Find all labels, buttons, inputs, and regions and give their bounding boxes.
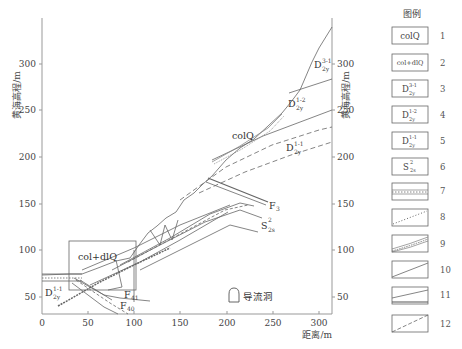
legend-item-5: D 1-1 2y 5 xyxy=(392,132,445,149)
x-tick-200: 200 xyxy=(218,318,235,328)
svg-text:colQ: colQ xyxy=(400,31,420,41)
S2s-band-2 xyxy=(112,210,262,270)
svg-text:11: 11 xyxy=(440,290,451,300)
svg-text:1-1: 1-1 xyxy=(409,134,417,140)
svg-text:1-1: 1-1 xyxy=(53,285,63,292)
y-tick-200: 200 xyxy=(19,152,36,162)
right-y-tick-50: 50 xyxy=(337,292,349,302)
svg-text:2y: 2y xyxy=(409,116,415,123)
y-axis-title-right: 黄海高程/m xyxy=(340,71,351,119)
svg-text:40: 40 xyxy=(127,305,135,312)
fault-F3-line-2 xyxy=(206,182,266,205)
legend-title: 图例 xyxy=(403,8,421,19)
label-D2y-1-2: D 1-2 2y xyxy=(288,96,306,112)
svg-text:12: 12 xyxy=(440,319,451,329)
svg-text:2y: 2y xyxy=(53,293,61,301)
svg-text:S: S xyxy=(403,162,409,172)
svg-text:D: D xyxy=(402,84,409,94)
geological-section-figure: 50 100 150 200 250 300 50 100 150 200 25… xyxy=(0,0,462,349)
y-tick-50: 50 xyxy=(25,292,37,302)
svg-text:9: 9 xyxy=(440,239,445,249)
svg-text:3: 3 xyxy=(276,205,280,212)
right-y-tick-100: 100 xyxy=(337,245,354,255)
boundary-D3-1-D1-2 xyxy=(289,79,332,93)
svg-text:4: 4 xyxy=(440,110,445,120)
y-tick-150: 150 xyxy=(19,199,36,209)
svg-text:F: F xyxy=(269,200,276,211)
legend: 图例 colQ 1 col+dlQ 2 D 3-1 2y 3 D 1-2 2y … xyxy=(392,8,451,332)
svg-text:D: D xyxy=(314,59,322,70)
svg-text:2s: 2s xyxy=(410,167,416,173)
svg-text:F: F xyxy=(124,289,131,300)
svg-text:2s: 2s xyxy=(268,226,275,233)
svg-text:5: 5 xyxy=(440,136,445,146)
svg-text:D: D xyxy=(402,110,409,120)
x-tick-300: 300 xyxy=(310,318,327,328)
svg-text:F: F xyxy=(120,300,127,311)
fault-F3-line xyxy=(208,178,268,202)
x-tick-150: 150 xyxy=(171,318,188,328)
y-tick-300: 300 xyxy=(19,59,36,69)
svg-text:2: 2 xyxy=(440,58,445,68)
label-D2y-1-1-mid: D 1-1 2y xyxy=(286,140,304,156)
svg-text:10: 10 xyxy=(440,265,451,275)
svg-text:2: 2 xyxy=(268,216,272,223)
svg-text:col+dlQ: col+dlQ xyxy=(397,59,424,67)
x-tick-50: 50 xyxy=(82,318,94,328)
right-y-tick-150: 150 xyxy=(337,199,354,209)
x-tick-0: 0 xyxy=(39,318,45,328)
x-tick-100: 100 xyxy=(125,318,142,328)
legend-item-2: col+dlQ 2 xyxy=(392,54,445,71)
legend-item-3: D 3-1 2y 3 xyxy=(392,80,445,97)
svg-text:2y: 2y xyxy=(322,65,330,73)
svg-text:2y: 2y xyxy=(409,142,415,149)
label-D2y-3-1: D 3-1 2y xyxy=(314,57,332,73)
right-y-tick-300: 300 xyxy=(337,59,354,69)
legend-item-1: colQ 1 xyxy=(392,27,445,44)
svg-text:D: D xyxy=(286,142,294,153)
svg-text:D: D xyxy=(402,136,409,146)
svg-text:1-2: 1-2 xyxy=(296,96,306,103)
label-D2y-1-1-left: D 1-1 2y xyxy=(45,285,63,301)
legend-item-9: 9 xyxy=(392,235,445,252)
svg-text:3-1: 3-1 xyxy=(322,57,332,64)
x-axis-title: 距离/m xyxy=(302,329,332,340)
legend-item-4: D 1-2 2y 4 xyxy=(392,106,445,123)
legend-item-8: 8 xyxy=(392,209,445,226)
y-axis-title-left: 黄海高程/m xyxy=(11,71,22,119)
label-colQ: colQ xyxy=(232,130,254,141)
svg-text:2y: 2y xyxy=(409,90,415,97)
legend-item-12: 12 xyxy=(392,315,451,332)
legend-item-7: 7 xyxy=(392,183,445,200)
svg-text:6: 6 xyxy=(440,162,445,172)
right-y-tick-200: 200 xyxy=(337,152,354,162)
contact-line-2 xyxy=(90,212,228,285)
svg-text:3-1: 3-1 xyxy=(409,82,417,88)
svg-text:3: 3 xyxy=(440,84,445,94)
legend-item-6: S 2 2s 6 xyxy=(392,158,445,175)
svg-text:1-1: 1-1 xyxy=(294,140,304,147)
label-S2s: S 2 2s xyxy=(261,216,275,233)
tunnel-icon xyxy=(229,288,239,302)
boundary-D1-2-D1-1 xyxy=(212,110,332,160)
label-F3: F 3 xyxy=(269,200,280,212)
svg-text:1-2: 1-2 xyxy=(409,108,417,114)
dashed-boundary-upper xyxy=(180,127,332,200)
y-tick-100: 100 xyxy=(19,245,36,255)
svg-text:2y: 2y xyxy=(294,148,302,156)
S2s-band-4 xyxy=(140,225,258,270)
svg-text:2: 2 xyxy=(410,159,413,165)
label-col-dlQ: col+dlQ xyxy=(78,251,117,262)
svg-text:D: D xyxy=(288,98,296,109)
svg-text:D: D xyxy=(45,287,53,298)
svg-text:7: 7 xyxy=(440,186,445,196)
legend-item-10: 10 xyxy=(392,261,451,278)
svg-text:41: 41 xyxy=(131,294,139,301)
svg-text:1: 1 xyxy=(440,31,445,41)
svg-text:S: S xyxy=(261,220,268,231)
x-tick-250: 250 xyxy=(264,318,281,328)
plot-area xyxy=(42,18,332,314)
tunnel-label: 导流洞 xyxy=(243,291,273,302)
label-F40: F 40 xyxy=(120,300,135,312)
svg-text:2y: 2y xyxy=(296,104,304,112)
